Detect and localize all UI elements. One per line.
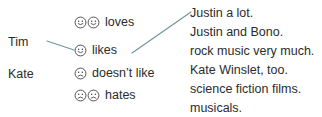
connector-tim-to-likes bbox=[47, 41, 74, 50]
smiling-face-icon-group bbox=[74, 16, 100, 29]
connector-lines bbox=[0, 0, 322, 117]
verb-label-likes: likes bbox=[92, 44, 117, 57]
subject-kate[interactable]: Kate bbox=[8, 68, 34, 81]
verb-option-loves[interactable]: loves bbox=[74, 16, 134, 29]
smiling-face-icon bbox=[87, 16, 100, 29]
verb-option-likes[interactable]: likes bbox=[74, 44, 117, 57]
object-option-justin-and-bono[interactable]: Justin and Bono. bbox=[190, 26, 283, 39]
object-option-rock-music[interactable]: rock music very much. bbox=[190, 45, 314, 58]
object-option-justin-a-lot[interactable]: Justin a lot. bbox=[190, 7, 253, 20]
frowning-face-icon bbox=[74, 67, 87, 80]
verb-option-hates[interactable]: hates bbox=[74, 89, 136, 102]
smiling-face-icon-group bbox=[74, 44, 87, 57]
subject-tim[interactable]: Tim bbox=[8, 36, 28, 49]
object-option-kate-winslet[interactable]: Kate Winslet, too. bbox=[190, 64, 288, 77]
connector-likes-to-justin bbox=[132, 12, 191, 53]
verb-label-hates: hates bbox=[105, 89, 136, 102]
object-option-musicals[interactable]: musicals. bbox=[190, 102, 242, 115]
object-option-science-fiction-films[interactable]: science fiction films. bbox=[190, 83, 301, 96]
smiling-face-icon bbox=[74, 44, 87, 57]
frowning-face-icon-group bbox=[74, 89, 100, 102]
verb-label-loves: loves bbox=[105, 16, 134, 29]
verb-option-doesnt-like[interactable]: doesn’t like bbox=[74, 67, 155, 80]
verb-label-doesnt-like: doesn’t like bbox=[92, 67, 155, 80]
frowning-face-icon bbox=[74, 89, 87, 102]
frowning-face-icon bbox=[87, 89, 100, 102]
sentence-builder-diagram: Tim Kate loves bbox=[0, 0, 322, 117]
smiling-face-icon bbox=[74, 16, 87, 29]
frowning-face-icon-group bbox=[74, 67, 87, 80]
